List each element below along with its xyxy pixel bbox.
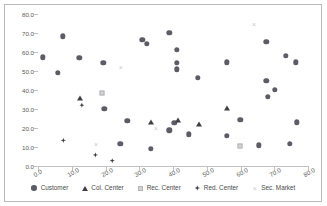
marker-circle-icon xyxy=(174,67,179,72)
marker-circle-icon xyxy=(186,132,191,137)
y-tick-label: 70.0 xyxy=(8,30,34,37)
data-point xyxy=(294,119,299,124)
marker-circle-icon xyxy=(272,87,277,92)
marker-circle-icon xyxy=(167,128,172,133)
legend-label: Rec. Center xyxy=(147,184,181,192)
data-point xyxy=(174,47,179,52)
data-point xyxy=(61,138,66,143)
marker-circle-icon xyxy=(294,119,299,124)
marker-cross-icon: × xyxy=(252,185,258,192)
marker-cross-icon: × xyxy=(93,140,99,147)
data-point: × xyxy=(251,20,257,27)
y-tick-label: 60.0 xyxy=(8,49,34,56)
legend-item-customer[interactable]: Customer xyxy=(31,184,69,192)
data-point xyxy=(174,67,179,72)
data-point xyxy=(60,34,65,39)
data-point xyxy=(174,60,179,65)
y-tick-label: 20.0 xyxy=(8,125,34,132)
marker-circle-icon xyxy=(40,55,45,60)
marker-diamond-icon xyxy=(93,152,98,157)
legend-marker xyxy=(31,185,38,192)
legend-label: Sec. Market xyxy=(261,184,295,192)
marker-circle-icon xyxy=(283,53,288,58)
data-point: × xyxy=(93,140,99,147)
plot-area: ×××× xyxy=(38,14,308,166)
marker-circle-icon xyxy=(174,47,179,52)
data-point xyxy=(196,121,202,126)
legend-item-col-center[interactable]: Col. Center xyxy=(81,184,123,192)
marker-circle-icon xyxy=(31,185,36,190)
data-point xyxy=(125,118,130,123)
marker-triangle-icon xyxy=(224,106,230,111)
data-point xyxy=(264,78,269,83)
marker-triangle-icon xyxy=(77,95,83,100)
marker-cross-icon: × xyxy=(153,125,159,132)
marker-circle-icon xyxy=(293,60,298,65)
data-point xyxy=(93,152,98,157)
data-point xyxy=(272,87,277,92)
data-point xyxy=(224,106,230,111)
y-tick-label: 0.0 xyxy=(8,163,34,170)
marker-circle-icon xyxy=(263,39,268,44)
marker-triangle-icon xyxy=(175,118,181,123)
marker-diamond-icon xyxy=(61,138,66,143)
data-point xyxy=(100,60,105,65)
chart-legend: CustomerCol. CenterRec. CenterRed. Cente… xyxy=(4,184,322,192)
marker-circle-icon xyxy=(265,94,270,99)
marker-circle-icon xyxy=(287,141,292,146)
scatter-chart: 0.010.020.030.040.050.060.070.080.0 0.01… xyxy=(0,0,327,206)
data-point xyxy=(79,102,84,107)
marker-circle-icon xyxy=(125,118,130,123)
legend-label: Col. Center xyxy=(91,184,123,192)
data-point xyxy=(99,90,104,95)
marker-circle-icon xyxy=(195,75,200,80)
marker-cross-icon: × xyxy=(251,20,257,27)
marker-circle-icon xyxy=(148,146,153,151)
marker-circle-icon xyxy=(144,41,149,46)
marker-circle-icon xyxy=(224,60,229,65)
data-point xyxy=(144,41,149,46)
marker-triangle-icon xyxy=(148,119,154,124)
data-point xyxy=(256,143,261,148)
legend-marker xyxy=(137,185,144,192)
marker-circle-icon xyxy=(101,106,106,111)
marker-circle-icon xyxy=(167,30,172,35)
data-point xyxy=(263,39,268,44)
data-point xyxy=(110,158,115,163)
y-tick-label: 80.0 xyxy=(8,11,34,18)
marker-square-icon xyxy=(138,186,143,191)
data-point xyxy=(175,118,181,123)
y-tick-label: 30.0 xyxy=(8,106,34,113)
data-point: × xyxy=(153,125,159,132)
y-tick-label: 50.0 xyxy=(8,68,34,75)
data-point xyxy=(76,55,81,60)
marker-square-icon xyxy=(238,143,243,148)
legend-label: Customer xyxy=(41,184,69,192)
marker-circle-icon xyxy=(224,133,229,138)
data-point xyxy=(118,141,123,146)
marker-diamond-icon xyxy=(195,185,200,190)
data-point xyxy=(238,143,243,148)
data-point xyxy=(77,95,83,100)
marker-circle-icon xyxy=(256,143,261,148)
marker-diamond-icon xyxy=(110,158,115,163)
marker-circle-icon xyxy=(174,60,179,65)
data-point xyxy=(167,30,172,35)
legend-item-sec-market[interactable]: ×Sec. Market xyxy=(251,184,295,192)
marker-cross-icon: × xyxy=(118,63,124,70)
legend-marker xyxy=(194,185,201,192)
data-point xyxy=(293,60,298,65)
data-point xyxy=(167,128,172,133)
marker-circle-icon xyxy=(100,60,105,65)
legend-marker xyxy=(81,185,88,192)
marker-square-icon xyxy=(99,90,104,95)
legend-item-red-center[interactable]: Red. Center xyxy=(194,184,238,192)
legend-label: Red. Center xyxy=(204,184,238,192)
data-point xyxy=(265,94,270,99)
data-point xyxy=(148,119,154,124)
data-point xyxy=(148,146,153,151)
legend-item-rec-center[interactable]: Rec. Center xyxy=(137,184,181,192)
data-point: × xyxy=(118,63,124,70)
y-tick-label: 10.0 xyxy=(8,144,34,151)
data-point xyxy=(224,133,229,138)
